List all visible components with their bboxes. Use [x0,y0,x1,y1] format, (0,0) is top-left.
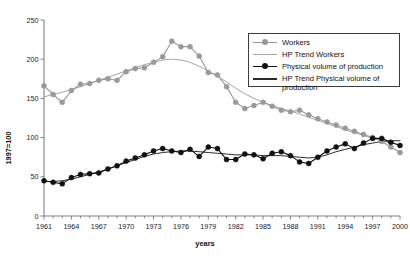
data-point [124,159,129,164]
data-point [288,109,293,114]
data-point [361,141,366,146]
data-point [224,84,229,89]
data-point [151,60,156,65]
x-tick-label: 1967 [91,222,107,231]
data-point [343,126,348,131]
data-point [78,172,83,177]
data-point [124,69,129,74]
data-point [188,44,193,49]
data-point [133,155,138,160]
x-tick-label: 1976 [173,222,189,231]
data-point [361,132,366,137]
data-point [334,123,339,128]
data-point [379,136,384,141]
data-point [151,148,156,153]
y-tick-label: 50 [31,172,39,181]
data-point [160,54,165,59]
data-point [261,100,266,105]
y-axis-title: 1997=100 [4,131,13,164]
chart-legend: Workers HP Trend Workers Physical volume… [248,33,400,87]
legend-item-hp-trend-production: HP Trend Physical volume of production [252,73,396,93]
data-point [60,181,65,186]
legend-key-gray-circle-line-icon [252,37,278,48]
data-point [306,161,311,166]
data-point [178,44,183,49]
legend-key-gray-line-icon [252,49,278,60]
data-point [315,116,320,121]
data-point [206,145,211,150]
x-tick-label: 1979 [200,222,216,231]
legend-key-dark-line-icon [252,73,278,84]
data-point [215,146,220,151]
x-tick-label: 1982 [228,222,244,231]
x-tick-label: 1991 [310,222,326,231]
data-point [197,54,202,59]
data-point [288,153,293,158]
data-point [169,39,174,44]
data-point [352,146,357,151]
y-tick-label: 250 [27,16,39,25]
data-point [69,175,74,180]
data-point [42,83,47,88]
data-point [206,70,211,75]
data-point [279,149,284,154]
legend-label-workers: Workers [282,37,310,47]
data-point [224,157,229,162]
data-point [51,180,56,185]
data-point [115,163,120,168]
x-tick-labels: 1961196419671970197319761979198219851988… [36,222,408,231]
legend-label-hp-trend-production: HP Trend Physical volume of production [282,73,379,92]
data-point [142,65,147,70]
data-point [51,92,56,97]
data-point [306,112,311,117]
data-point [270,104,275,109]
data-point [160,146,165,151]
x-tick-label: 1994 [337,222,353,231]
data-point [215,72,220,77]
data-point [105,166,110,171]
data-point [115,78,120,83]
x-axis-title: years [195,239,214,248]
x-tick-label: 1973 [146,222,162,231]
chart-container: 050100150200250 196119641967197019731976… [0,0,410,260]
legend-key-black-circle-line-icon [252,61,278,72]
y-tick-label: 100 [27,133,39,142]
data-point [388,145,393,150]
data-point [261,156,266,161]
data-point [78,82,83,87]
legend-item-production: Physical volume of production [252,61,396,73]
data-point [242,106,247,111]
legend-label-hp-trend-workers: HP Trend Workers [282,49,344,59]
data-point [178,150,183,155]
y-tick-labels: 050100150200250 [27,16,39,221]
legend-item-workers: Workers [252,37,396,49]
data-point [270,151,275,156]
data-point [388,140,393,145]
y-tick-label: 200 [27,55,39,64]
data-point [133,66,138,71]
x-tick-label: 1961 [36,222,52,231]
data-point [398,150,403,155]
series-line-3 [44,141,400,182]
x-tick-label: 1988 [282,222,298,231]
data-point [96,78,101,83]
legend-item-hp-trend-workers: HP Trend Workers [252,49,396,61]
data-point [169,148,174,153]
data-point [142,152,147,157]
x-tick-label: 1964 [63,222,79,231]
data-point [69,88,74,93]
x-tick-label: 1985 [255,222,271,231]
data-point [315,155,320,160]
data-point [370,136,375,141]
data-point [251,152,256,157]
data-point [324,119,329,124]
data-point [343,141,348,146]
data-point [188,147,193,152]
data-point [60,100,65,105]
y-tick-label: 150 [27,94,39,103]
legend-label-production: Physical volume of production [282,61,383,71]
data-point [105,76,110,81]
data-point [297,159,302,164]
data-point [197,154,202,159]
data-point [87,81,92,86]
